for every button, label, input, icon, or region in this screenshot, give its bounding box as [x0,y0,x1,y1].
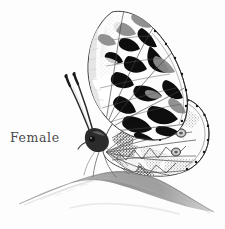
illustration-page: Female [0,0,225,229]
butterfly-illustration [0,0,225,229]
caption-female: Female [10,130,60,145]
butterfly-drawing-svg [0,0,225,229]
eye [89,136,95,142]
eyespot [171,148,180,156]
